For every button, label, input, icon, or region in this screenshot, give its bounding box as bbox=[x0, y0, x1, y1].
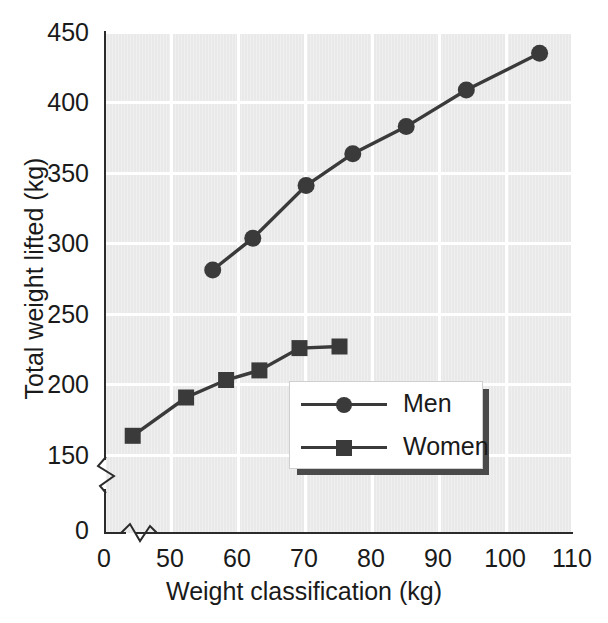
x-tick-label: 0 bbox=[97, 546, 111, 571]
x-tick-label: 110 bbox=[552, 546, 592, 571]
y-axis-line-lower bbox=[104, 489, 106, 533]
y-axis-line bbox=[104, 31, 106, 460]
legend-box[interactable]: Men Women bbox=[289, 381, 483, 469]
y-tick-label: 450 bbox=[47, 20, 89, 45]
legend-key-circle-icon bbox=[301, 392, 387, 416]
gridline-vertical bbox=[505, 31, 508, 533]
y-tick-label: 350 bbox=[47, 161, 89, 186]
gridline-vertical bbox=[170, 31, 173, 533]
x-axis-break-icon bbox=[120, 522, 158, 546]
gridline-horizontal bbox=[106, 101, 573, 104]
y-tick-label: 400 bbox=[47, 90, 89, 115]
y-tick-label: 0 bbox=[75, 518, 89, 543]
y-tick-label: 150 bbox=[47, 443, 89, 468]
y-tick-label: 300 bbox=[47, 231, 89, 256]
x-tick-label: 50 bbox=[156, 546, 184, 571]
x-tick-label: 80 bbox=[357, 546, 385, 571]
legend-entry-men[interactable]: Men bbox=[290, 382, 482, 425]
y-axis-title: Total weight lifted (kg) bbox=[20, 49, 49, 509]
x-tick-label: 60 bbox=[223, 546, 251, 571]
legend-key-square-icon bbox=[301, 435, 387, 459]
y-tick-label: 200 bbox=[47, 372, 89, 397]
gridline-horizontal bbox=[106, 31, 573, 34]
x-tick-label: 70 bbox=[290, 546, 318, 571]
gridline-horizontal bbox=[106, 313, 573, 316]
x-axis-line bbox=[136, 532, 573, 534]
legend-label: Women bbox=[403, 432, 489, 461]
gridline-vertical bbox=[571, 31, 573, 533]
x-tick-label: 100 bbox=[484, 546, 526, 571]
x-axis-title: Weight classification (kg) bbox=[0, 577, 608, 606]
chart-figure: 450 400 350 300 250 200 150 0 0 50 60 70… bbox=[0, 0, 608, 623]
gridline-horizontal bbox=[106, 242, 573, 245]
gridline-horizontal bbox=[106, 172, 573, 175]
legend-entry-women[interactable]: Women bbox=[290, 425, 482, 468]
y-axis-break-icon bbox=[96, 456, 118, 494]
x-tick-label: 90 bbox=[424, 546, 452, 571]
y-tick-label: 250 bbox=[47, 302, 89, 327]
legend-label: Men bbox=[403, 389, 452, 418]
gridline-vertical bbox=[237, 31, 240, 533]
